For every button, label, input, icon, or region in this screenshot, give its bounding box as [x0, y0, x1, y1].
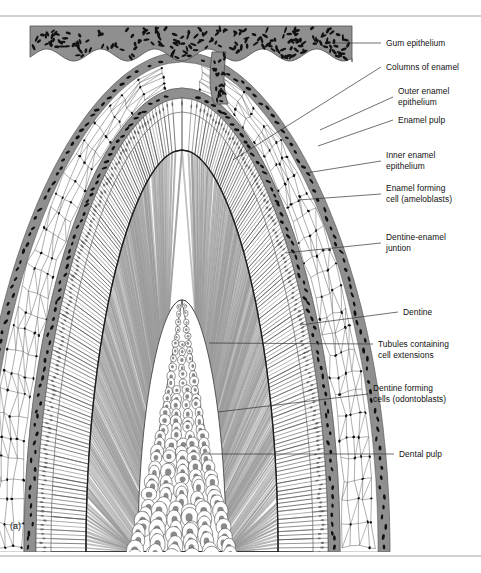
odontoblast-nucleus	[186, 513, 193, 521]
enamel-columns-zone-column	[54, 456, 88, 464]
odontoblast-nucleus	[181, 381, 184, 384]
enamel-columns-zone-column	[195, 117, 200, 155]
enamel-columns-zone-column	[277, 503, 312, 507]
gum-epithelium-band	[30, 25, 352, 62]
odontoblast-nucleus	[185, 403, 188, 407]
odontoblast-nucleus	[166, 396, 169, 400]
label-dentine: Dentine	[403, 307, 432, 318]
enamel-columns-zone-column	[269, 368, 301, 384]
odontoblast-nucleus	[174, 349, 176, 352]
gum-epithelium-nucleus	[171, 53, 173, 58]
enamel-columns-zone-column	[65, 364, 96, 380]
ameloblast-palisade-nucleus	[318, 551, 321, 553]
dentine-zone-tubule	[197, 156, 198, 320]
odontoblast-nucleus	[188, 349, 190, 352]
odontoblast-nucleus	[187, 342, 190, 345]
label-dental-pulp: Dental pulp	[399, 449, 442, 460]
odontoblast-nucleus	[186, 425, 190, 430]
enamel-columns-zone-column	[260, 305, 288, 326]
enamel-columns-zone-column	[55, 451, 89, 460]
enamel-columns-zone-column	[76, 301, 104, 323]
odontoblast-nucleus	[169, 381, 172, 386]
enamel-columns-zone-column	[270, 380, 302, 395]
enamel-columns-zone-column	[51, 534, 86, 536]
odontoblast-nucleus	[178, 306, 180, 308]
enamel-pulp-reticulum-nucleus	[252, 107, 254, 110]
label-enamel-pulp: Enamel pulp	[398, 115, 445, 126]
odontoblast-cell	[148, 544, 163, 566]
enamel-columns-zone-column	[278, 534, 313, 536]
odontoblast-nucleus	[185, 311, 187, 314]
odontoblast-nucleus	[175, 389, 178, 393]
enamel-columns-zone-column	[275, 439, 309, 449]
odontoblast-nucleus	[146, 492, 153, 498]
enamel-columns-zone-column	[269, 372, 301, 388]
enamel-columns-zone-column	[51, 517, 86, 520]
ameloblast-palisade-nucleus	[181, 102, 183, 106]
enamel-columns-zone-column	[71, 328, 101, 347]
odontoblast-cell	[126, 549, 143, 571]
leader-inner-enamel-epithelium	[306, 161, 381, 173]
enamel-columns-zone-column	[55, 447, 89, 456]
odontoblast-cell	[203, 546, 221, 567]
enamel-columns-zone-column	[278, 530, 313, 532]
enamel-columns-zone-column	[54, 460, 88, 468]
odontoblast-nucleus	[180, 358, 183, 362]
enamel-columns-zone-column	[263, 324, 293, 344]
odontoblast-nucleus	[192, 379, 196, 383]
enamel-columns-zone-column	[51, 525, 86, 527]
enamel-pulp-reticulum-nucleus	[243, 91, 245, 93]
enamel-columns-zone-column	[268, 364, 299, 380]
enamel-columns-zone-column	[275, 451, 309, 460]
enamel-columns-zone-column	[220, 153, 234, 187]
odontoblast-nucleus	[184, 305, 186, 307]
enamel-columns-zone-column	[259, 297, 287, 319]
enamel-columns-zone-column	[52, 499, 87, 504]
enamel-columns-zone-column	[274, 434, 308, 444]
label-columns-of-enamel: Columns of enamel	[386, 62, 459, 73]
odontoblast-nucleus	[166, 454, 171, 459]
enamel-columns-zone-column	[168, 115, 172, 153]
enamel-columns-zone-column	[278, 539, 313, 540]
enamel-columns-zone-column	[54, 469, 88, 476]
odontoblast-nucleus	[177, 321, 179, 324]
enamel-columns-zone-column	[269, 376, 301, 391]
enamel-columns-zone-column	[134, 147, 147, 182]
enamel-columns-zone-column	[72, 320, 101, 340]
enamel-columns-zone-column	[55, 443, 89, 452]
enamel-columns-zone-column	[52, 512, 87, 515]
enamel-columns-zone-column	[62, 384, 94, 399]
odontoblast-nucleus	[177, 329, 179, 332]
odontoblast-nucleus	[167, 390, 170, 394]
enamel-columns-zone-column	[197, 119, 203, 156]
enamel-columns-zone-column	[276, 469, 310, 476]
odontoblast-nucleus	[194, 402, 198, 406]
enamel-columns-zone-column	[164, 117, 169, 155]
odontoblast-nucleus	[181, 372, 184, 376]
odontoblast-nucleus	[174, 341, 177, 344]
enamel-columns-zone-column	[271, 389, 303, 403]
enamel-columns-zone-column	[61, 389, 93, 403]
enamel-columns-zone-column	[278, 543, 313, 544]
odontoblast-nucleus	[186, 412, 190, 417]
enamel-columns-zone-column	[276, 456, 310, 464]
enamel-columns-zone-column	[189, 113, 191, 151]
enamel-columns-zone-column	[277, 499, 312, 504]
odontoblast-nucleus	[194, 388, 197, 392]
enamel-columns-zone-column	[51, 521, 86, 524]
enamel-columns-zone-column	[275, 443, 309, 452]
enamel-columns-zone-column	[277, 495, 312, 500]
enamel-columns-zone-column	[56, 434, 90, 444]
enamel-columns-zone-column	[52, 503, 87, 507]
odontoblast-nucleus	[168, 555, 176, 564]
enamel-columns-zone-column	[54, 464, 88, 472]
odontoblast-nucleus	[175, 336, 177, 339]
enamel-columns-zone-column	[276, 464, 310, 472]
odontoblast-nucleus	[162, 418, 167, 423]
enamel-columns-zone-column	[73, 316, 102, 336]
enamel-columns-zone-column	[72, 324, 102, 344]
odontoblast-nucleus	[174, 432, 178, 437]
enamel-columns-zone-column	[53, 473, 87, 480]
odontoblast-nucleus	[186, 321, 188, 323]
enamel-columns-zone-column	[63, 372, 95, 388]
